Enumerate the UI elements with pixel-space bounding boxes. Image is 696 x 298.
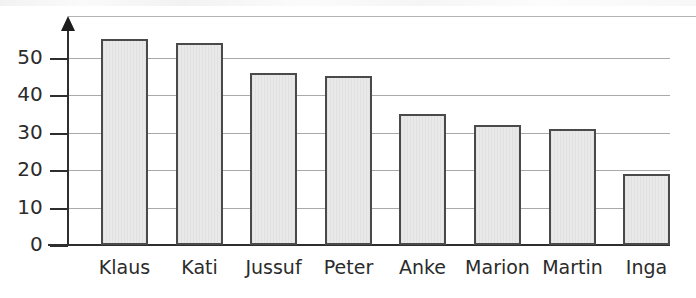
y-tick-30 [50, 133, 68, 135]
x-label-inga: Inga [597, 256, 696, 278]
y-tick-40 [50, 95, 68, 97]
bar-kati[interactable] [176, 43, 223, 245]
y-tick-0 [50, 245, 68, 247]
y-tick-label-0: 0 [0, 234, 43, 254]
bar-jussuf[interactable] [250, 73, 297, 245]
y-tick-10 [50, 208, 68, 210]
y-tick-label-40: 40 [0, 84, 43, 104]
plot-area: 01020304050 KlausKatiJussufPeterAnkeMari… [0, 0, 696, 298]
bar-martin[interactable] [549, 129, 596, 245]
y-tick-label-20: 20 [0, 159, 43, 179]
bar-anke[interactable] [399, 114, 446, 245]
bar-inga[interactable] [623, 174, 670, 245]
bar-marion[interactable] [474, 125, 521, 245]
y-axis-arrow-icon [61, 16, 75, 31]
y-tick-label-30: 30 [0, 122, 43, 142]
y-tick-label-10: 10 [0, 197, 43, 217]
gridline-50 [68, 58, 670, 59]
bar-chart: 01020304050 KlausKatiJussufPeterAnkeMari… [0, 0, 696, 298]
bar-peter[interactable] [325, 76, 372, 245]
y-axis-line [67, 30, 69, 246]
bar-klaus[interactable] [101, 39, 148, 245]
y-tick-50 [50, 58, 68, 60]
y-tick-label-50: 50 [0, 47, 43, 67]
gridline-top [68, 16, 696, 17]
y-tick-20 [50, 170, 68, 172]
